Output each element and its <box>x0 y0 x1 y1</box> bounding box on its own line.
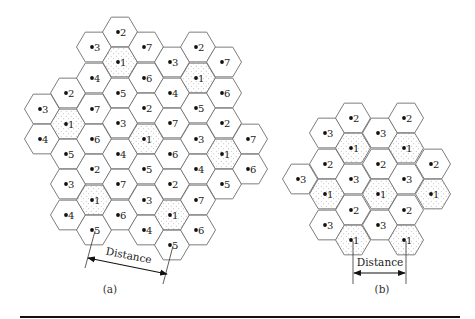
cell-label: 5 <box>198 103 204 114</box>
cell-label: 6 <box>198 225 204 236</box>
cell-label: 3 <box>327 220 333 231</box>
cell-label: 4 <box>94 73 100 84</box>
cell-label: 2 <box>68 88 74 99</box>
cell-label: 3 <box>380 128 386 139</box>
cell-label: 3 <box>172 57 178 68</box>
cellular-reuse-figure: 3421534347621521534767621534347621521534… <box>0 0 475 319</box>
cell-label: 5 <box>120 88 126 99</box>
cell-label: 3 <box>300 174 306 185</box>
cell-label: 2 <box>327 159 333 170</box>
cell-label: 6 <box>94 134 100 145</box>
cell-label: 2 <box>406 205 412 216</box>
cell-label: 2 <box>433 159 439 170</box>
cell-label: 6 <box>146 73 152 84</box>
panel-a-seven-cell-reuse: 3421534347621521534767621534347621521534… <box>25 17 268 295</box>
cell-label: 4 <box>120 149 126 160</box>
cell-label: 6 <box>250 164 256 175</box>
cell-label: 7 <box>120 179 126 190</box>
cell-label: 2 <box>146 103 152 114</box>
cell-label: 2 <box>380 159 386 170</box>
cell-label: 1 <box>327 189 333 200</box>
bottom-rule-divider <box>20 316 460 318</box>
cell-label: 2 <box>224 118 230 129</box>
cell-label: 2 <box>120 27 126 38</box>
cell-label: 2 <box>94 164 100 175</box>
cell-label: 3 <box>380 220 386 231</box>
cell-label: 5 <box>172 240 178 251</box>
cell-label: 2 <box>172 179 178 190</box>
cell-label: 1 <box>146 134 152 145</box>
cell-label: 1 <box>94 195 100 206</box>
cell-label: 1 <box>68 119 74 130</box>
cell-label: 5 <box>224 179 230 190</box>
cell-label: 1 <box>198 73 204 84</box>
cell-label: 4 <box>68 210 74 221</box>
cell-label: 3 <box>120 118 126 129</box>
panel-b-three-cell-reuse: 332132132132132132121Distance(b) <box>283 103 451 295</box>
cell-label: 5 <box>146 164 152 175</box>
cell-label: 7 <box>172 118 178 129</box>
cell-label: 1 <box>380 189 386 200</box>
cell-label: 3 <box>198 134 204 145</box>
cell-label: 6 <box>120 210 126 221</box>
cell-label: 7 <box>146 42 152 53</box>
cell-label: 1 <box>433 189 439 200</box>
cell-label: 3 <box>353 174 359 185</box>
cell-label: 1 <box>120 57 126 68</box>
cell-label: 2 <box>406 113 412 124</box>
cell-label: 3 <box>94 42 100 53</box>
cell-label: 3 <box>68 179 74 190</box>
cell-label: 7 <box>250 134 256 145</box>
cell-label: 2 <box>353 205 359 216</box>
cell-label: 4 <box>42 134 48 145</box>
distance-label: Distance <box>357 256 404 268</box>
cell-label: 2 <box>198 42 204 53</box>
cell-label: 3 <box>406 174 412 185</box>
cell-label: 7 <box>198 195 204 206</box>
cell-label: 1 <box>406 143 412 154</box>
cell-label: 3 <box>146 195 152 206</box>
cell-label: 6 <box>224 88 230 99</box>
cell-label: 4 <box>146 225 152 236</box>
cell-label: 1 <box>353 143 359 154</box>
cell-label: 4 <box>198 164 204 175</box>
cell-label: 5 <box>68 149 74 160</box>
cell-label: 2 <box>353 113 359 124</box>
cell-label: 7 <box>94 104 100 115</box>
cell-label: 3 <box>42 104 48 115</box>
cell-label: 3 <box>327 128 333 139</box>
panel-caption: (b) <box>375 283 390 295</box>
cell-label: 4 <box>172 88 178 99</box>
cell-label: 1 <box>353 235 359 246</box>
cell-label: 6 <box>172 149 178 160</box>
cell-label: 5 <box>94 225 100 236</box>
cell-label: 1 <box>224 149 230 160</box>
panel-caption: (a) <box>103 283 117 295</box>
cell-label: 1 <box>406 235 412 246</box>
cell-label: 1 <box>172 210 178 221</box>
cell-label: 7 <box>224 57 230 68</box>
